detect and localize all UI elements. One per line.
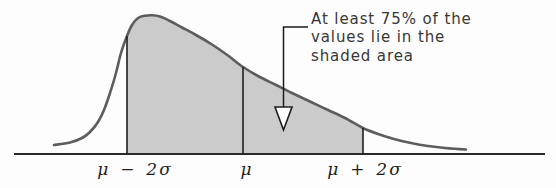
x-tick-label-mu-minus-2sigma: μ − 2σ [97,159,173,179]
annotation-line-2: values lie in the [311,28,472,46]
distribution-plot [0,0,556,188]
annotation-line-1: At least 75% of the [311,10,472,28]
x-tick-label-mu-plus-2sigma: μ + 2σ [327,159,403,179]
x-tick-label-mu: μ [240,159,253,179]
annotation-text: At least 75% of the values lie in the sh… [311,10,472,65]
annotation-line-3: shaded area [311,47,472,65]
chebyshev-theorem-figure: At least 75% of the values lie in the sh… [0,0,556,188]
